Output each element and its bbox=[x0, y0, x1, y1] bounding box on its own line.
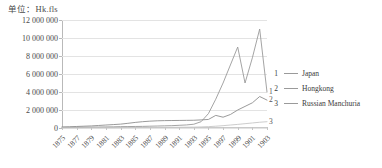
y-axis-tick-label: 4 000 000 bbox=[26, 88, 58, 97]
legend-key: 2 bbox=[272, 84, 280, 93]
legend-line-swatch bbox=[284, 103, 298, 104]
series-line-hongkong bbox=[62, 97, 267, 127]
legend-key: 3 bbox=[272, 99, 280, 108]
legend-item-japan: 1 Japan bbox=[272, 66, 380, 81]
legend: 1 Japan 2 Hongkong 3 Russian Manchuria bbox=[272, 66, 380, 111]
data-series bbox=[62, 20, 267, 128]
unit-label: 单位：Hk.fls bbox=[8, 2, 58, 14]
legend-label: Japan bbox=[302, 69, 319, 78]
y-axis-tick-label: 2 000 000 bbox=[26, 106, 58, 115]
y-axis-tick-label: 12 000 000 bbox=[22, 16, 58, 25]
legend-line-swatch bbox=[284, 88, 298, 89]
series-line-japan bbox=[62, 29, 267, 127]
y-axis-tick-label: 10 000 000 bbox=[22, 34, 58, 43]
legend-label: Russian Manchuria bbox=[302, 99, 360, 108]
legend-line-swatch bbox=[284, 73, 298, 74]
legend-label: Hongkong bbox=[302, 84, 334, 93]
plot-area bbox=[62, 20, 267, 128]
legend-item-russian-manchuria: 3 Russian Manchuria bbox=[272, 96, 380, 111]
chart-figure: 单位：Hk.fls 12 000 00010 000 0008 000 0006… bbox=[0, 0, 382, 168]
y-axis-labels: 12 000 00010 000 0008 000 0006 000 0004 … bbox=[0, 20, 58, 128]
legend-item-hongkong: 2 Hongkong bbox=[272, 81, 380, 96]
y-axis-tick-label: 8 000 000 bbox=[26, 52, 58, 61]
y-axis-tick-label: 6 000 000 bbox=[26, 70, 58, 79]
legend-key: 1 bbox=[272, 69, 280, 78]
x-axis-labels: 1875187718791881188318851887188918911893… bbox=[0, 130, 382, 168]
end-label-russian-manchuria: 3 bbox=[269, 117, 273, 126]
